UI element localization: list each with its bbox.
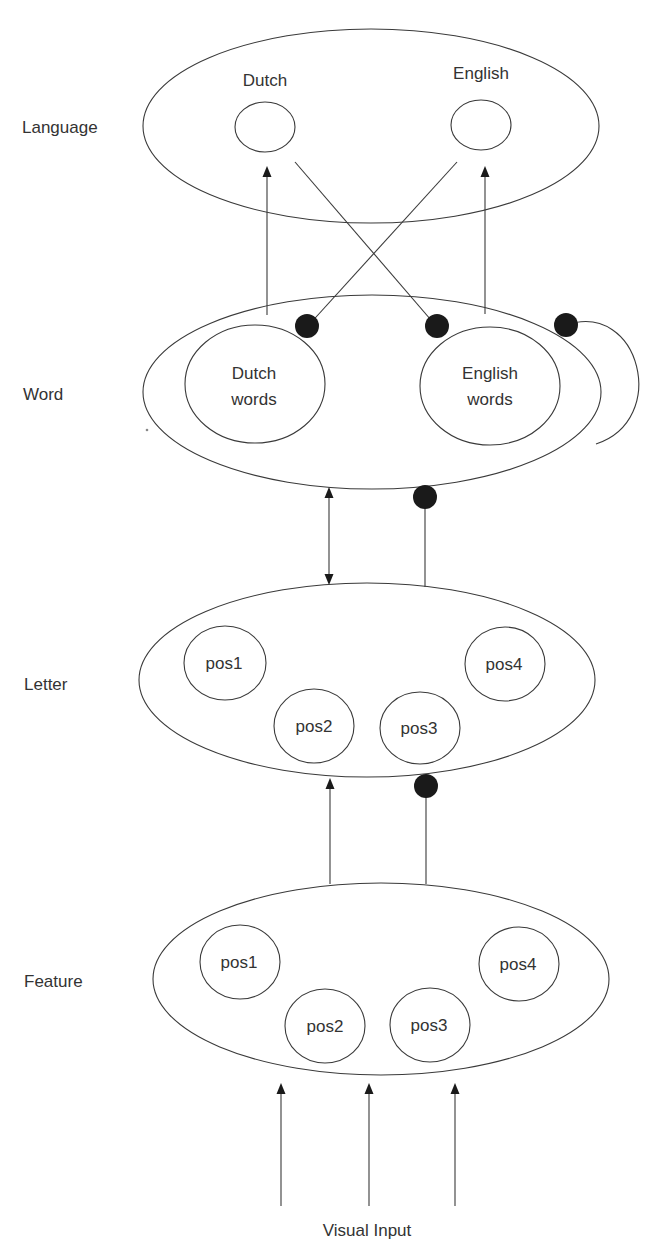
feature-node-label-pos1: pos1 — [221, 953, 258, 972]
feature-node-label-pos2: pos2 — [307, 1017, 344, 1036]
inhibit-dutch-to-englishwords — [295, 162, 437, 327]
word-node-label-dutch-line1: Dutch — [232, 364, 276, 383]
arrowhead-up-icon — [365, 1083, 374, 1094]
inhibitory-dot-icon — [413, 485, 437, 509]
word-layer-ellipse — [143, 295, 601, 489]
language-node-english — [451, 100, 511, 150]
inhibitory-dot-icon — [295, 314, 319, 338]
language-layer: Language Dutch English — [22, 29, 599, 223]
letter-layer: Letter pos1 pos2 pos3 pos4 — [24, 583, 595, 777]
word-to-language-arrows — [263, 166, 490, 315]
arrowhead-up-icon — [451, 1083, 460, 1094]
letter-node-label-pos4: pos4 — [486, 655, 523, 674]
inhibitory-dot-icon — [425, 314, 449, 338]
bia-model-diagram: Language Dutch English Word Dutch words … — [0, 0, 656, 1252]
stray-mark — [146, 429, 149, 432]
language-node-label-dutch: Dutch — [243, 71, 287, 90]
language-layer-ellipse — [143, 29, 599, 223]
feature-letter-connections — [326, 774, 439, 884]
layer-label-word: Word — [23, 385, 63, 404]
letter-node-label-pos3: pos3 — [401, 719, 438, 738]
arrowhead-up-icon — [277, 1083, 286, 1094]
arrowhead-up-icon — [325, 487, 334, 498]
word-node-label-english-line1: English — [462, 364, 518, 383]
word-node-dutch-words — [185, 325, 325, 443]
visual-input-label: Visual Input — [323, 1221, 412, 1240]
arrowhead-up-icon — [481, 166, 490, 177]
layer-label-letter: Letter — [24, 675, 68, 694]
arrowhead-up-icon — [263, 166, 272, 177]
feature-node-label-pos3: pos3 — [411, 1016, 448, 1035]
inhibit-english-to-dutchwords — [307, 162, 457, 327]
language-to-word-inhibition — [295, 162, 457, 327]
letter-node-label-pos2: pos2 — [296, 717, 333, 736]
layer-label-language: Language — [22, 118, 98, 137]
language-node-dutch — [235, 102, 295, 152]
visual-input: Visual Input — [277, 1083, 460, 1240]
word-node-english-words — [420, 327, 560, 445]
language-node-label-english: English — [453, 64, 509, 83]
layer-label-feature: Feature — [24, 972, 83, 991]
arrowhead-up-icon — [326, 778, 335, 789]
word-lateral-inhibition-loop — [566, 322, 639, 444]
word-letter-connections — [325, 485, 438, 587]
letter-layer-ellipse — [139, 583, 595, 777]
letter-node-label-pos1: pos1 — [206, 654, 243, 673]
inhibitory-dot-icon — [554, 313, 578, 337]
inhibitory-dot-icon — [414, 774, 438, 798]
feature-layer-ellipse — [153, 883, 609, 1075]
word-node-label-english-line2: words — [466, 390, 512, 409]
word-layer: Word Dutch words English words — [23, 295, 639, 489]
feature-layer: Feature pos1 pos2 pos3 pos4 — [24, 883, 609, 1075]
word-node-label-dutch-line2: words — [230, 390, 276, 409]
feature-node-label-pos4: pos4 — [500, 955, 537, 974]
arrowhead-down-icon — [325, 574, 334, 585]
